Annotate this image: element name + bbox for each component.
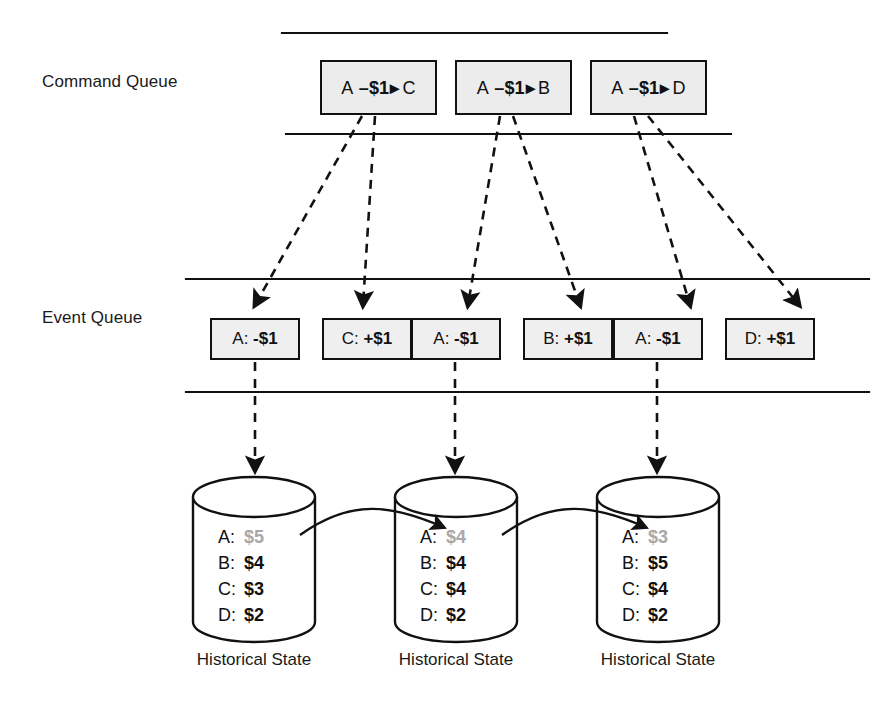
state-row: C:$4 [420,576,518,602]
state-row: D:$2 [218,602,316,628]
historical-state-caption: Historical State [381,650,531,670]
state-row: B:$4 [420,550,518,576]
event-box-label: D: +$1 [745,329,796,349]
state-row: A:$4 [420,524,518,550]
lane-label-event-queue: Event Queue [42,308,142,328]
historical-state-rows: A:$5 B:$4 C:$3 D:$2 [193,524,316,628]
connector-cmd2-evt4 [513,116,580,305]
event-box-label: B: +$1 [543,329,593,349]
command-to-event-connectors [255,116,799,305]
command-box-label: A –$1▸D [611,77,685,99]
state-row: A:$5 [218,524,316,550]
command-box[interactable]: A –$1▸C [320,60,437,115]
command-box-label: A –$1▸B [477,77,550,99]
right-arrow-icon: ▸ [390,78,399,98]
state-row: C:$3 [218,576,316,602]
historical-state-rows: A:$4 B:$4 C:$4 D:$2 [395,524,518,628]
state-row: D:$2 [622,602,720,628]
state-row: B:$4 [218,550,316,576]
right-arrow-icon: ▸ [526,78,535,98]
connector-cmd2-evt3 [468,116,500,305]
event-box-label: A: -$1 [433,329,478,349]
event-to-state-connectors [255,362,657,470]
lane-label-command-queue: Command Queue [42,72,177,92]
connector-cmd3-evt6 [648,116,799,305]
event-box[interactable]: A: -$1 [411,318,501,360]
state-row: C:$4 [622,576,720,602]
historical-state-caption: Historical State [583,650,733,670]
state-row: A:$3 [622,524,720,550]
event-box[interactable]: B: +$1 [523,318,613,360]
command-box[interactable]: A –$1▸B [455,60,572,115]
event-box[interactable]: D: +$1 [725,318,815,360]
event-box-label: C: +$1 [342,329,393,349]
connector-cmd1-evt1 [255,116,362,305]
command-box-label: A –$1▸C [341,77,415,99]
connector-cmd3-evt5 [634,116,690,305]
event-box[interactable]: A: -$1 [613,318,703,360]
event-box-label: A: -$1 [635,329,680,349]
diagram-canvas: Command Queue Event Queue A –$1▸C A –$1▸… [0,0,872,720]
event-box-label: A: -$1 [232,329,277,349]
historical-state-rows: A:$3 B:$5 C:$4 D:$2 [597,524,720,628]
right-arrow-icon: ▸ [660,78,669,98]
command-box[interactable]: A –$1▸D [590,60,707,115]
event-box[interactable]: C: +$1 [322,318,412,360]
connector-cmd1-evt2 [363,116,375,305]
state-row: D:$2 [420,602,518,628]
state-row: B:$5 [622,550,720,576]
event-box[interactable]: A: -$1 [210,318,300,360]
historical-state-caption: Historical State [179,650,329,670]
